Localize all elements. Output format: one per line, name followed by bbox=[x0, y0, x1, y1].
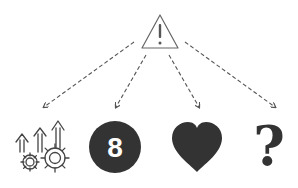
growth-arrows-gears-icon bbox=[16, 121, 69, 172]
heart-icon bbox=[172, 122, 222, 172]
exclamation-dot bbox=[159, 42, 162, 45]
small-gear-icon bbox=[21, 153, 39, 171]
question-mark-icon: ? bbox=[253, 114, 285, 178]
arrow-to-heart bbox=[169, 55, 199, 107]
eight-ball-icon: 8 bbox=[89, 121, 141, 173]
large-gear-icon bbox=[41, 144, 69, 172]
eight-ball-label: 8 bbox=[107, 132, 123, 163]
exclamation-bar bbox=[159, 24, 161, 38]
arrow-to-growth bbox=[44, 42, 134, 107]
warning-triangle-icon bbox=[142, 15, 178, 48]
arrow-to-question bbox=[185, 42, 275, 107]
diagram-canvas: 8 ? bbox=[0, 0, 298, 188]
arrow-to-eight-ball bbox=[116, 55, 146, 107]
dashed-arrows bbox=[44, 42, 275, 107]
question-mark-symbol: ? bbox=[253, 114, 285, 178]
